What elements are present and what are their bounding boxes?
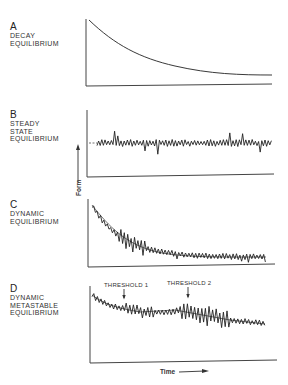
panel-d-axes	[90, 286, 277, 363]
metastable-trend-line	[92, 295, 265, 324]
time-label: Time	[160, 368, 175, 375]
time-arrow-shaft	[179, 371, 205, 372]
form-label: Form	[75, 180, 82, 196]
panel-a-axes	[86, 19, 272, 86]
up-arrow-icon	[76, 144, 80, 150]
decay-curve	[89, 20, 272, 75]
dynamic-trend-line	[92, 205, 266, 257]
panel-d-plot: THRESHOLD 1 THRESHOLD 2	[90, 280, 277, 363]
dynamic-signal	[92, 206, 265, 262]
steady-state-signal	[97, 131, 271, 154]
panel-a-plot	[86, 19, 272, 86]
down-arrow-icon	[122, 295, 125, 300]
threshold-1-label: THRESHOLD 1	[104, 282, 149, 288]
equilibrium-diagram: Form THRESHOLD 1 THRESHOLD 2 Time	[0, 0, 288, 385]
form-axis-label: Form	[75, 144, 82, 196]
panel-c-plot	[88, 199, 275, 267]
panel-b-plot: Form	[75, 110, 275, 196]
threshold-2-label: THRESHOLD 2	[167, 280, 212, 286]
right-arrow-icon	[202, 369, 209, 373]
down-arrow-icon	[186, 294, 189, 299]
time-axis-label: Time	[160, 368, 209, 375]
